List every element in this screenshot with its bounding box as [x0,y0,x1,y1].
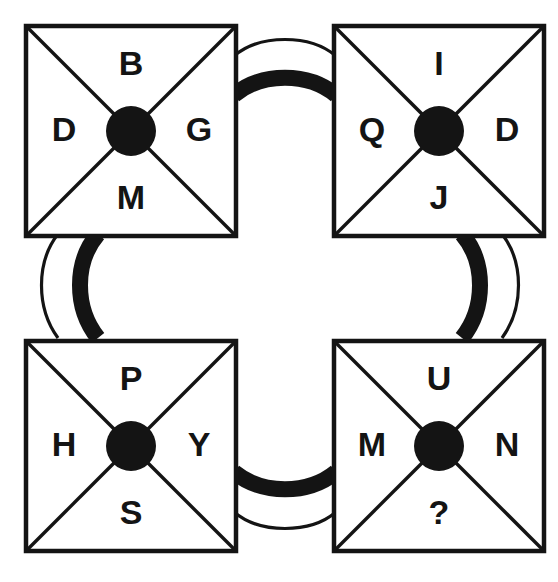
top-connector [234,40,336,96]
cell-bottom-right-hub-dot [414,421,464,471]
cell-top-left-letter-right: G [186,110,212,148]
bottom-connector-thin-arc [234,512,336,529]
cell-bottom-left-letter-left: H [52,425,77,463]
cell-top-left-letter-left: D [52,110,77,148]
cell-top-left-hub-dot [106,106,156,156]
cell-top-right-letter-bottom: J [430,178,449,216]
top-connector-thick-arc [234,78,336,95]
cell-bottom-right-missing-letter[interactable]: ? [429,493,450,531]
left-connector [42,234,99,338]
left-connector-thick-arc [80,234,98,338]
cell-bottom-left[interactable]: P H Y S [26,341,236,551]
left-connector-thin-arc [42,234,59,338]
cell-top-right-hub-dot [414,106,464,156]
cell-bottom-right-letter-left: M [358,425,386,463]
cell-top-right-letter-left: Q [359,110,385,148]
top-connector-thin-arc [234,40,336,57]
puzzle-canvas: B D G M I Q D J P H Y S [0,0,558,582]
cell-bottom-left-letter-top: P [120,359,143,397]
cell-top-left-letter-bottom: M [117,178,145,216]
right-connector [462,234,519,338]
cell-top-left-letter-top: B [119,44,144,82]
cell-bottom-left-hub-dot [106,421,156,471]
cell-top-right-letter-right: D [495,110,520,148]
cell-bottom-right[interactable]: U M N ? [334,341,544,551]
bottom-connector-thick-arc [234,472,336,489]
bottom-connector [234,472,336,529]
cell-bottom-right-letter-right: N [495,425,520,463]
right-connector-thin-arc [502,234,519,338]
cell-top-left[interactable]: B D G M [26,26,236,236]
cell-bottom-left-letter-right: Y [188,425,211,463]
cell-bottom-right-letter-top: U [427,359,452,397]
puzzle-diagram: B D G M I Q D J P H Y S [0,0,558,582]
cell-top-right[interactable]: I Q D J [334,26,544,236]
cell-top-right-letter-top: I [434,44,443,82]
cell-bottom-left-letter-bottom: S [120,493,143,531]
right-connector-thick-arc [462,234,480,338]
